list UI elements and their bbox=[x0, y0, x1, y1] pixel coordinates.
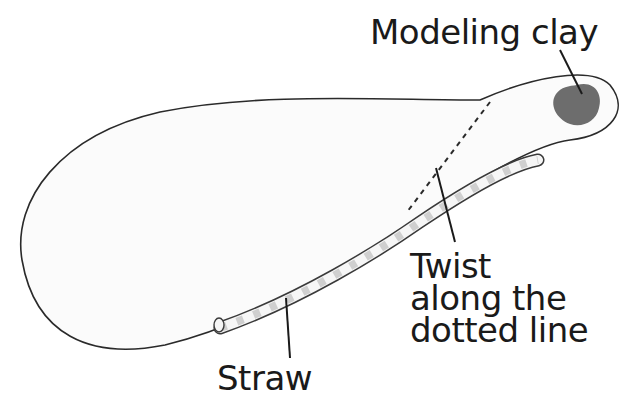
twist-instruction-label: Twist along the dotted line bbox=[410, 250, 588, 346]
diagram: Modeling clay Twist along the dotted lin… bbox=[0, 0, 622, 406]
straw-leader-line bbox=[286, 298, 290, 358]
modeling-clay-label: Modeling clay bbox=[370, 16, 598, 48]
twist-label-line-3: dotted line bbox=[410, 314, 588, 346]
straw-label: Straw bbox=[217, 362, 312, 394]
